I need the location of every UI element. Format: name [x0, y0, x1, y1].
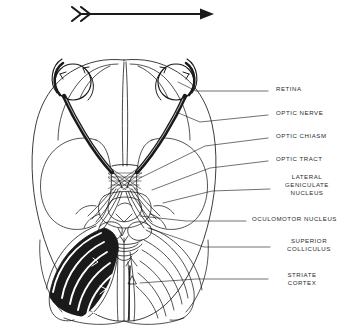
oculomotor-nucleus [118, 228, 128, 242]
label-sc-line-1: SUPERIOR [291, 237, 327, 244]
leader-optic-nerve [176, 112, 268, 122]
label-superior-colliculus: SUPERIORCOLLICULUS [276, 237, 342, 253]
optic-radiation-right [136, 228, 202, 320]
label-lateral-geniculate-nucleus: LATERALGENICULATENUCLEUS [276, 173, 338, 198]
label-lgn-line-3: NUCLEUS [291, 189, 324, 196]
label-sc-line-2: COLLICULUS [287, 245, 331, 252]
label-lgn-line-2: GENICULATE [285, 181, 329, 188]
leader-optic-tract [152, 161, 268, 190]
longitudinal-fissure [122, 62, 127, 320]
occipital-contours-right [126, 252, 137, 321]
label-retina: RETINA [276, 85, 302, 93]
label-stc-line-2: CORTEX [288, 279, 317, 286]
label-stc-line-1: STRIATE [287, 271, 316, 278]
label-striate-cortex: STRIATECORTEX [276, 271, 328, 287]
leader-lateral-geniculate-nucleus [163, 189, 270, 203]
optic-nerve-left [64, 96, 112, 172]
temporal-lobe-contours [41, 138, 208, 229]
occipital-contours-left [117, 256, 118, 321]
leader-superior-colliculus [148, 228, 270, 247]
label-oculomotor-nucleus: OCULOMOTOR NUCLEUS [252, 215, 337, 223]
eye-right [156, 59, 197, 100]
label-lgn-line-1: LATERAL [292, 173, 323, 180]
optic-nerve-right [137, 96, 185, 172]
figure-canvas: RETINA OPTIC NERVE OPTIC CHIASM OPTIC TR… [0, 0, 360, 333]
direction-arrow [72, 7, 214, 21]
label-optic-chiasm: OPTIC CHIASM [276, 132, 327, 140]
eye-left [52, 59, 93, 100]
optic-radiation-left [46, 226, 118, 322]
label-optic-tract: OPTIC TRACT [276, 155, 323, 163]
label-optic-nerve: OPTIC NERVE [276, 109, 323, 117]
midbrain-detail [76, 192, 174, 229]
leader-lines [140, 82, 270, 283]
